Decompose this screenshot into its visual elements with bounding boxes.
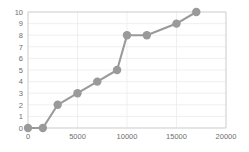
data-point-marker [143, 31, 151, 39]
y-tick-label: 10 [15, 8, 23, 17]
data-point-marker [192, 8, 200, 16]
y-tick-label: 7 [19, 43, 23, 52]
x-tick-label: 0 [26, 132, 30, 141]
data-point-marker [54, 101, 62, 109]
y-tick-label: 1 [19, 112, 23, 121]
data-point-marker [39, 124, 47, 132]
data-point-marker [113, 66, 121, 74]
data-point-marker [24, 124, 32, 132]
data-point-marker [123, 31, 131, 39]
y-axis-tick-labels: 012345678910 [15, 8, 23, 133]
x-axis-tick-labels: 05000100001500020000 [26, 132, 237, 141]
gridlines [28, 12, 226, 128]
y-tick-label: 8 [19, 31, 23, 40]
y-tick-label: 5 [19, 66, 23, 75]
line-chart: 012345678910 05000100001500020000 [0, 0, 249, 152]
y-tick-label: 6 [19, 54, 23, 63]
data-point-marker [172, 19, 180, 27]
y-tick-label: 2 [19, 101, 23, 110]
x-tick-label: 5000 [69, 132, 86, 141]
x-tick-label: 15000 [166, 132, 187, 141]
y-tick-label: 0 [19, 124, 23, 133]
y-tick-label: 9 [19, 19, 23, 28]
x-tick-label: 20000 [216, 132, 237, 141]
y-tick-label: 4 [19, 77, 23, 86]
x-tick-label: 10000 [117, 132, 138, 141]
y-tick-label: 3 [19, 89, 23, 98]
data-point-marker [73, 89, 81, 97]
data-point-marker [93, 77, 101, 85]
chart-container: 012345678910 05000100001500020000 [0, 0, 249, 152]
